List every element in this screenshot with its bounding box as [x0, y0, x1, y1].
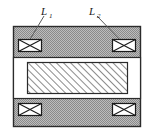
- label-l1-subscript: 1: [49, 12, 53, 20]
- winding-bottom-right: [113, 104, 136, 116]
- winding-top-right: [113, 40, 136, 52]
- winding-top-left: [19, 40, 42, 52]
- diagram-canvas: L 1 L 2: [0, 0, 154, 138]
- winding-bottom-left: [19, 104, 42, 116]
- label-l1-base: L: [40, 5, 47, 17]
- label-l2-subscript: 2: [97, 12, 101, 20]
- label-l2-base: L: [88, 5, 95, 17]
- laminated-core: [28, 63, 128, 94]
- figure-container: L 1 L 2: [0, 0, 154, 138]
